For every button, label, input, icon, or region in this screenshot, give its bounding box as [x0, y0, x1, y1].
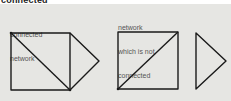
- network-graphs: [0, 0, 231, 101]
- connected-network-graph: [11, 33, 99, 90]
- diagram-root: connected connected network network whic…: [0, 0, 231, 101]
- disconnected-network-graph: [118, 32, 226, 89]
